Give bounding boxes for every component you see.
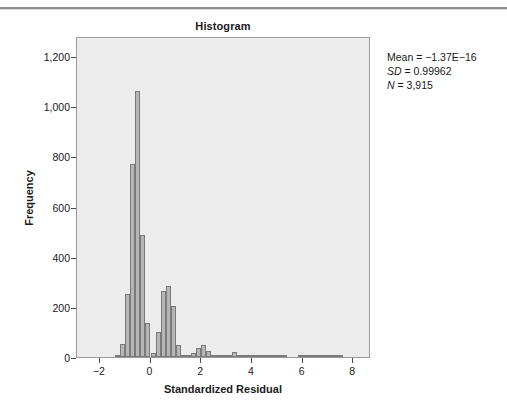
x-axis-tick-mark bbox=[150, 358, 151, 363]
top-divider-hairline bbox=[0, 9, 507, 10]
stat-n-symbol: N bbox=[387, 79, 395, 91]
x-axis-title: Standardized Residual bbox=[76, 383, 370, 395]
x-axis-tick-label: 8 bbox=[349, 365, 355, 377]
y-axis: Frequency 02004006008001,0001,200 bbox=[0, 37, 76, 358]
stat-sd-value: 0.99962 bbox=[414, 65, 452, 77]
x-axis-tick-mark bbox=[302, 358, 303, 363]
x-axis-tick-label: 0 bbox=[147, 365, 153, 377]
x-axis-tick-mark bbox=[251, 358, 252, 363]
histogram-bar bbox=[145, 323, 150, 357]
page-title: Histogram bbox=[76, 20, 370, 32]
stat-sd: SD = 0.99962 bbox=[387, 64, 505, 78]
x-axis-tick-label: −2 bbox=[93, 365, 105, 377]
stat-n: N = 3,915 bbox=[387, 78, 505, 92]
stat-n-value-wrap: = 3,915 bbox=[395, 79, 433, 91]
stat-sd-value-wrap: = 0.99962 bbox=[402, 65, 452, 77]
histogram-bar bbox=[338, 355, 343, 357]
x-axis: −202468 Standardized Residual bbox=[76, 358, 370, 408]
y-axis-tick-label: 600 bbox=[52, 202, 70, 214]
stat-mean: Mean = −1.37E−16 bbox=[387, 50, 505, 64]
plot-area bbox=[76, 37, 370, 358]
x-axis-tick-label: 2 bbox=[197, 365, 203, 377]
x-axis-tick-label: 4 bbox=[248, 365, 254, 377]
histogram-figure: Histogram Frequency 02004006008001,0001,… bbox=[0, 0, 507, 419]
x-axis-tick-label: 6 bbox=[299, 365, 305, 377]
y-axis-title: Frequency bbox=[23, 138, 35, 258]
x-axis-tick-mark bbox=[99, 358, 100, 363]
y-axis-tick-label: 800 bbox=[52, 151, 70, 163]
stat-sd-symbol: SD bbox=[387, 65, 402, 77]
y-axis-tick-label: 1,200 bbox=[44, 51, 70, 63]
y-axis-tick-label: 200 bbox=[52, 302, 70, 314]
top-divider-rule bbox=[0, 7, 507, 9]
statistics-annotation: Mean = −1.37E−16 SD = 0.99962 N = 3,915 bbox=[387, 50, 505, 92]
y-axis-tick-label: 0 bbox=[64, 352, 70, 364]
x-axis-tick-mark bbox=[352, 358, 353, 363]
histogram-bars bbox=[77, 38, 369, 357]
stat-n-value: 3,915 bbox=[407, 79, 433, 91]
y-axis-tick-label: 1,000 bbox=[44, 101, 70, 113]
x-axis-tick-mark bbox=[200, 358, 201, 363]
histogram-bar bbox=[282, 355, 287, 357]
y-axis-tick-label: 400 bbox=[52, 252, 70, 264]
